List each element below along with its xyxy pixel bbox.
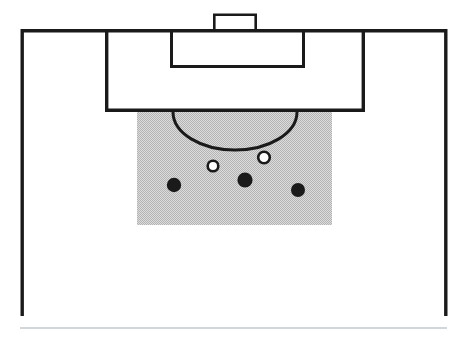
attacker-marker-right: [291, 183, 305, 197]
defender-marker-right: [258, 152, 270, 164]
highlighted-danger-zone: [137, 112, 332, 225]
soccer-pitch-diagram: [0, 0, 461, 340]
attacker-marker-left: [167, 178, 181, 192]
pitch-canvas: [0, 0, 461, 340]
defender-marker-left: [208, 161, 219, 172]
attacker-marker-centre: [237, 172, 252, 187]
